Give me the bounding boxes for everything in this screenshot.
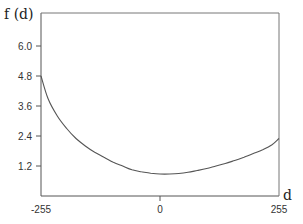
y-axis-title: f (d) xyxy=(4,6,34,22)
x-tick-label: 0 xyxy=(157,204,163,215)
x-tick-label: -255 xyxy=(31,204,51,215)
x-tick-label: 255 xyxy=(271,204,288,215)
y-tick-label: 2.4 xyxy=(18,131,32,142)
y-tick-label: 3.6 xyxy=(18,101,32,112)
y-tick-label: 6.0 xyxy=(18,41,32,52)
x-ticks: -2550255 xyxy=(31,196,288,215)
y-tick-label: 1.2 xyxy=(18,161,32,172)
line-chart: 1.22.43.64.86.0 -2550255 f (d) d xyxy=(0,0,303,224)
y-ticks: 1.22.43.64.86.0 xyxy=(18,41,41,172)
data-curve xyxy=(41,76,279,174)
y-tick-label: 4.8 xyxy=(18,71,32,82)
x-axis-title: d xyxy=(283,187,292,203)
